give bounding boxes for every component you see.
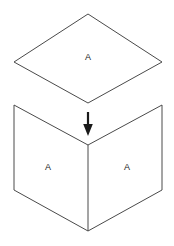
- top-flat-shape-group: A: [14, 14, 162, 103]
- fold-direction-arrow-group: [83, 112, 93, 136]
- left-panel-label-a: A: [45, 162, 51, 172]
- right-panel-label-a: A: [124, 162, 130, 172]
- figure-canvas: A A A: [0, 0, 174, 246]
- top-face-label-a: A: [85, 52, 91, 62]
- arrow-head-icon: [83, 124, 93, 136]
- folding-diagram: A A A: [0, 0, 174, 246]
